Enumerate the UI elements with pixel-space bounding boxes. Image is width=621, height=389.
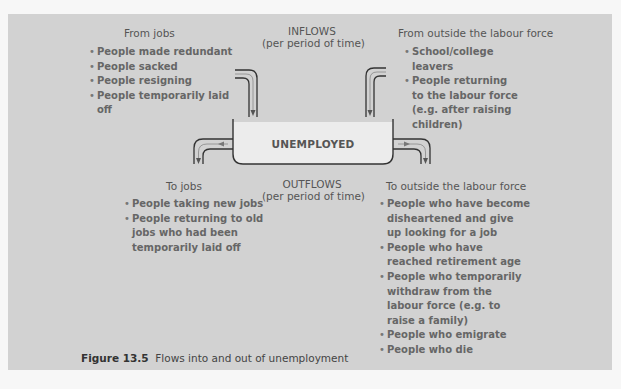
list-item: People returning to the labour force (e.… (404, 74, 522, 132)
figure-number: Figure 13.5 (81, 352, 149, 364)
to-outside-heading: To outside the labour force (386, 180, 526, 192)
figure-caption: Figure 13.5 Flows into and out of unempl… (81, 352, 348, 364)
list-item: School/college leavers (404, 45, 522, 74)
from-outside-heading: From outside the labour force (398, 27, 553, 39)
inflows-subtitle: (per period of time) (262, 37, 362, 49)
to-jobs-heading: To jobs (166, 180, 202, 192)
outflow-arrow-to-jobs (194, 139, 233, 164)
list-item: People who emigrate (379, 328, 531, 343)
inflow-arrow-from-outside (366, 68, 386, 117)
outflow-arrow-to-outside (393, 139, 430, 164)
to-jobs-list: People taking new jobs People returning … (124, 197, 264, 255)
from-jobs-list: People made redundant People sacked Peop… (89, 45, 239, 118)
list-item: People made redundant (89, 45, 239, 60)
inflows-title: INFLOWS (262, 25, 362, 37)
to-outside-list: People who have become disheartened and … (379, 197, 531, 358)
unemployed-label: UNEMPLOYED (233, 138, 393, 150)
list-item: People who have reached retirement age (379, 241, 531, 270)
list-item: People returning to old jobs who had bee… (124, 212, 264, 256)
outflows-title: OUTFLOWS (262, 178, 362, 190)
inflows-label: INFLOWS (per period of time) (262, 25, 362, 49)
list-item: People taking new jobs (124, 197, 264, 212)
from-jobs-heading: From jobs (124, 27, 175, 39)
list-item: People sacked (89, 60, 239, 75)
from-outside-list: School/college leavers People returning … (404, 45, 522, 133)
list-item: People who die (379, 343, 531, 358)
outflows-subtitle: (per period of time) (262, 190, 362, 202)
list-item: People temporarily laid off (89, 89, 239, 118)
list-item: People who temporarily withdraw from the… (379, 270, 531, 328)
list-item: People who have become disheartened and … (379, 197, 531, 241)
list-item: People resigning (89, 74, 239, 89)
outflows-label: OUTFLOWS (per period of time) (262, 178, 362, 202)
figure-caption-text: Flows into and out of unemployment (155, 352, 348, 364)
